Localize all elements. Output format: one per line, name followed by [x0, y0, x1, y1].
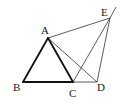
- segment-AB: [23, 38, 48, 82]
- point-label-d: D: [97, 81, 105, 93]
- segment-AD: [48, 38, 97, 82]
- segment-AC: [48, 38, 73, 82]
- segment-AE: [48, 18, 110, 38]
- extension-line: [110, 7, 116, 18]
- point-labels: ABCDE: [13, 6, 108, 99]
- geometry-figure: ABCDE: [0, 0, 124, 102]
- point-label-b: B: [13, 81, 20, 93]
- segment-DE: [97, 18, 110, 82]
- thin-segments: [48, 7, 116, 82]
- segment-CE: [73, 18, 110, 82]
- point-label-a: A: [41, 24, 49, 36]
- point-label-c: C: [69, 87, 76, 99]
- bold-segments: [23, 38, 73, 82]
- point-label-e: E: [101, 6, 108, 18]
